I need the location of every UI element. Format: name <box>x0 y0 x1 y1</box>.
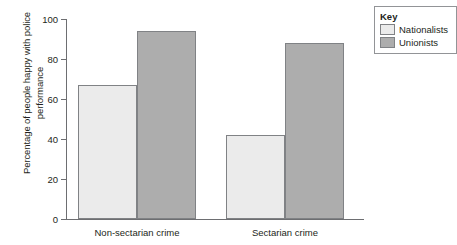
y-axis-tick: 40 <box>61 139 66 140</box>
bar <box>137 31 196 219</box>
y-axis-tick-label: 20 <box>47 174 58 185</box>
bar-chart: Percentage of people happy with police p… <box>0 0 457 245</box>
y-axis-tick-label: 60 <box>47 94 58 105</box>
legend-swatch-icon <box>380 24 395 35</box>
bar <box>78 85 137 219</box>
legend-item-label: Nationalists <box>399 24 448 35</box>
y-axis-tick-label: 80 <box>47 54 58 65</box>
legend-title: Key <box>380 11 451 22</box>
plot-area: 020406080100 Non-sectarian crimeSectaria… <box>66 19 363 219</box>
y-axis-tick: 60 <box>61 99 66 100</box>
y-axis-tick-label: 100 <box>42 14 58 25</box>
x-axis-category-label: Sectarian crime <box>226 227 344 238</box>
legend-item: Nationalists <box>380 24 451 35</box>
legend-item: Unionists <box>380 37 451 48</box>
y-axis-tick: 20 <box>61 179 66 180</box>
legend-item-label: Unionists <box>399 37 438 48</box>
y-axis-tick: 100 <box>61 19 66 20</box>
bar <box>226 135 285 219</box>
y-axis-tick: 0 <box>61 219 66 220</box>
x-axis-line <box>66 219 364 220</box>
bar <box>285 43 344 219</box>
legend-swatch-icon <box>380 37 395 48</box>
y-axis-tick: 80 <box>61 59 66 60</box>
y-axis-tick-label: 40 <box>47 134 58 145</box>
legend: Key NationalistsUnionists <box>374 6 457 54</box>
y-axis-line <box>66 19 67 220</box>
legend-entries: NationalistsUnionists <box>380 24 451 48</box>
y-axis-tick-label: 0 <box>53 214 58 225</box>
x-axis-category-label: Non-sectarian crime <box>78 227 196 238</box>
